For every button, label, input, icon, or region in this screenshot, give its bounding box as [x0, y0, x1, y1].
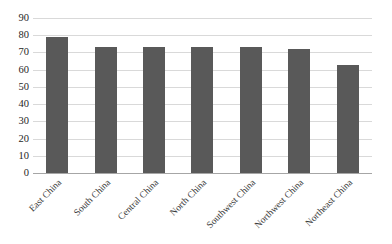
y-axis-tick-label: 0 — [24, 168, 29, 179]
bar[interactable] — [46, 37, 68, 173]
x-label-slot: Northeast China — [324, 174, 372, 244]
y-axis-tick-label: 70 — [19, 47, 30, 58]
y-axis-tick-label: 60 — [19, 64, 30, 75]
y-axis-tick-label: 10 — [19, 151, 30, 162]
bar[interactable] — [191, 47, 213, 173]
bar-slot — [324, 18, 372, 173]
bar[interactable] — [337, 65, 359, 174]
bar[interactable] — [288, 49, 310, 173]
bar-slot — [178, 18, 226, 173]
x-axis-category-labels: East ChinaSouth ChinaCentral ChinaNorth … — [33, 174, 372, 244]
bar-slot — [275, 18, 323, 173]
bar-slot — [33, 18, 81, 173]
y-axis-tick-label: 80 — [19, 30, 30, 41]
bar-slot — [81, 18, 129, 173]
y-axis-tick-label: 40 — [19, 99, 30, 110]
y-axis-tick-label: 90 — [19, 13, 30, 24]
x-axis-category-label: East China — [28, 178, 64, 214]
y-axis-tick-label: 30 — [19, 116, 30, 127]
y-axis-tick-label: 50 — [19, 82, 30, 93]
bar-slot — [130, 18, 178, 173]
bar[interactable] — [143, 47, 165, 173]
bar-slot — [227, 18, 275, 173]
y-axis-tick-label: 20 — [19, 133, 30, 144]
bar[interactable] — [240, 47, 262, 173]
bar-chart: 0102030405060708090 East ChinaSouth Chin… — [0, 0, 392, 244]
plot-area — [33, 18, 372, 173]
bar[interactable] — [95, 47, 117, 173]
bars-layer — [33, 18, 372, 173]
